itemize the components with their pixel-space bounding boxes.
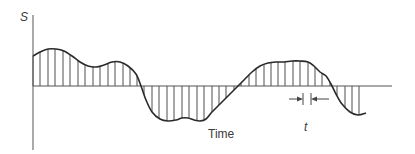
interval-label: t [304,120,308,134]
signal-waveform [33,49,366,121]
sample-lines [33,49,359,121]
y-axis-label: S [20,10,28,24]
x-axis-label: Time [208,127,235,141]
arrow-right-icon [297,97,303,102]
sampled-signal-diagram: S Time t [0,0,415,154]
interval-marker [289,93,329,105]
arrow-left-icon [311,97,317,102]
